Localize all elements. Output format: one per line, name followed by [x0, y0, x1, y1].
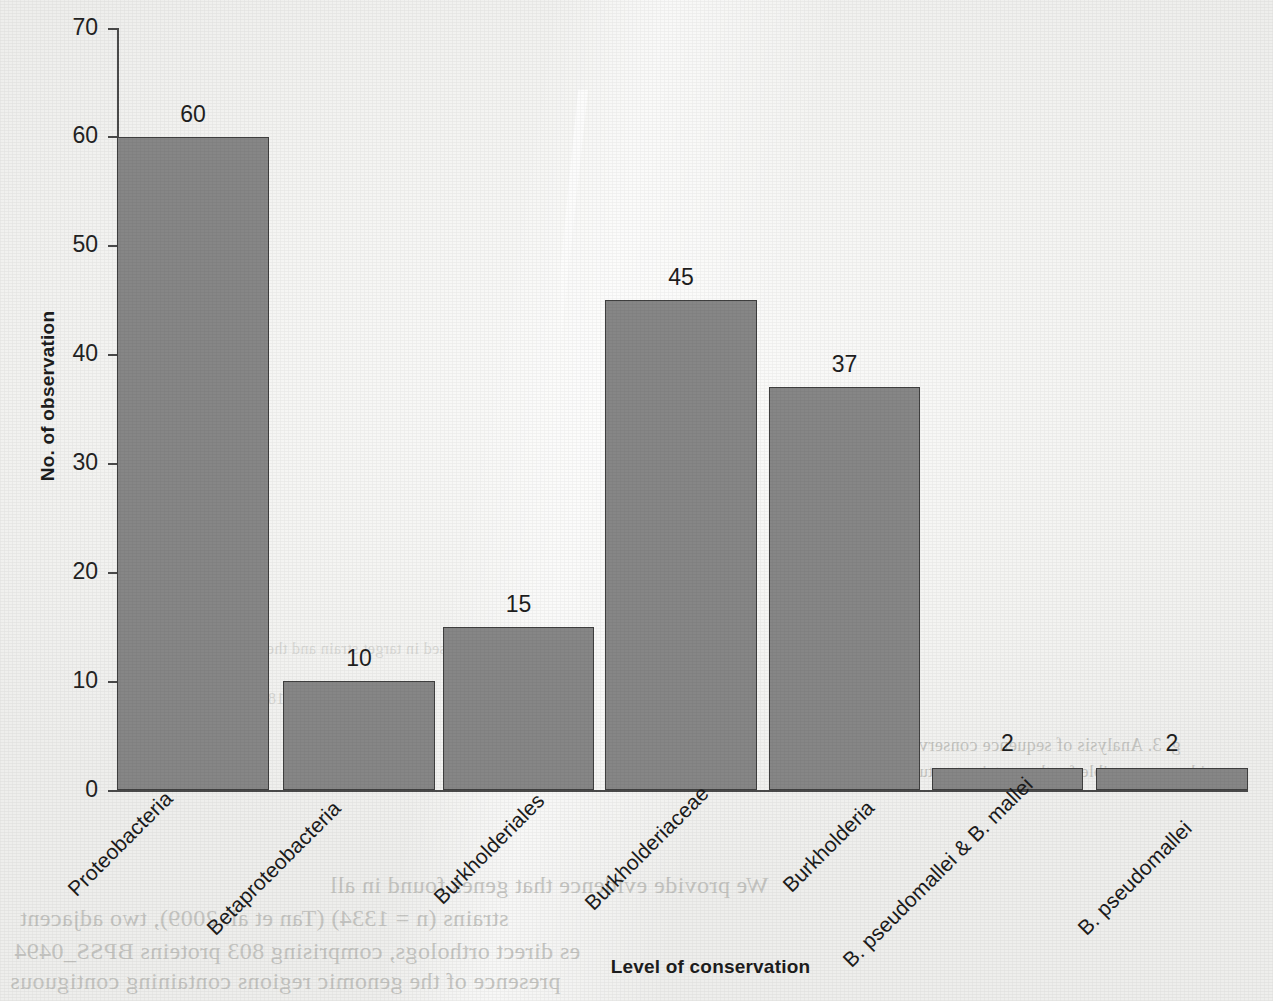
x-category-label-b-pseudomallei: B. pseudomallei — [1073, 816, 1197, 940]
y-tick — [108, 681, 117, 683]
bar-burkholderia[interactable] — [769, 387, 920, 790]
bar-burkholderiaceae[interactable] — [605, 300, 757, 790]
bar-value-label: 10 — [283, 645, 435, 672]
y-tick — [108, 790, 117, 792]
y-tick-label: 70 — [18, 14, 98, 41]
y-axis-title: No. of observation — [37, 266, 59, 526]
bar-chart: 0 10 20 30 40 50 60 70 No. of observatio… — [0, 0, 1273, 1001]
y-tick — [108, 28, 117, 30]
y-tick-label: 0 — [18, 776, 98, 803]
bar-value-label: 37 — [769, 351, 920, 378]
bar-value-label: 2 — [932, 730, 1083, 757]
x-category-label-proteobacteria: Proteobacteria — [63, 786, 178, 901]
x-axis-line — [117, 790, 1248, 792]
x-category-label-burkholderiaceae: Burkholderiaceae — [580, 781, 714, 915]
y-tick — [108, 572, 117, 574]
y-tick-label: 20 — [18, 558, 98, 585]
y-tick-label: 60 — [18, 122, 98, 149]
x-category-label-burkholderia: Burkholderia — [778, 796, 879, 897]
bar-betaproteobacteria[interactable] — [283, 681, 435, 790]
bar-value-label: 2 — [1096, 730, 1248, 757]
x-category-label-burkholderiales: Burkholderiales — [429, 789, 549, 909]
bar-value-label: 15 — [443, 591, 594, 618]
bar-b-pseudomallei[interactable] — [1096, 768, 1248, 790]
y-tick — [108, 354, 117, 356]
bar-proteobacteria[interactable] — [117, 137, 269, 790]
x-category-label-betaproteobacteria: Betaproteobacteria — [202, 796, 346, 940]
x-axis-title: Level of conservation — [74, 956, 1273, 978]
y-tick — [108, 245, 117, 247]
y-tick — [108, 136, 117, 138]
y-tick-label: 10 — [18, 667, 98, 694]
bar-value-label: 60 — [117, 101, 269, 128]
y-tick — [108, 463, 117, 465]
y-tick-label: 50 — [18, 231, 98, 258]
bar-burkholderiales[interactable] — [443, 627, 594, 790]
bar-value-label: 45 — [605, 264, 757, 291]
